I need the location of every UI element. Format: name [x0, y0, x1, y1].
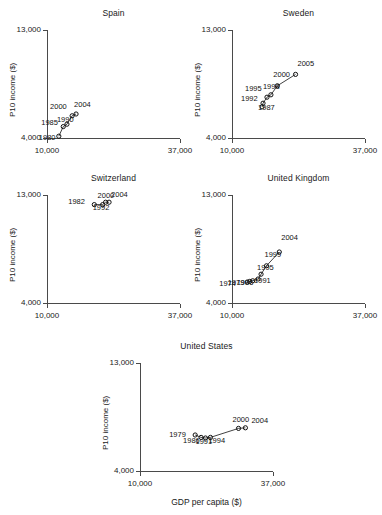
point-year-label: 1985: [41, 119, 58, 127]
point-year-label: 1980: [39, 134, 56, 142]
point-year-label: 2000: [233, 416, 250, 424]
point-year-label: 1998: [263, 83, 280, 91]
point-year-label: 1995: [257, 264, 274, 272]
point-year-label: 2004: [111, 191, 128, 199]
point-year-label: 2005: [298, 60, 315, 68]
point-year-label: 1990: [57, 116, 74, 124]
point-year-label: 1982: [68, 198, 85, 206]
series-plot: [185, 8, 378, 156]
panel-switzerland: Switzerland13,0004,00010,00037,000P10 in…: [0, 173, 185, 327]
x-axis-label: GDP per capita ($): [140, 497, 273, 507]
point-year-label: 1986: [237, 279, 254, 287]
point-year-label: 2004: [281, 234, 298, 242]
point-year-label: 2000: [273, 71, 290, 79]
point-year-label: 2000: [50, 103, 67, 111]
data-point-marker: [57, 134, 61, 138]
series-plot: [0, 173, 193, 321]
panel-united-kingdom: United Kingdom13,0004,00010,00037,000P10…: [185, 173, 370, 327]
point-year-label: 1992: [93, 204, 110, 212]
panel-spain: Spain13,0004,00010,00037,000P10 income (…: [0, 8, 185, 162]
point-year-label: 1994: [208, 437, 225, 445]
series-plot: [93, 341, 286, 489]
panel-sweden: Sweden13,0004,00010,00037,000P10 income …: [185, 8, 370, 162]
point-year-label: 2004: [74, 101, 91, 109]
point-year-label: 1991: [254, 277, 271, 285]
point-year-label: 1992: [241, 95, 258, 103]
series-plot: [185, 173, 378, 321]
point-year-label: 1999: [264, 251, 281, 259]
series-plot: [0, 8, 193, 156]
point-year-label: 1995: [245, 85, 262, 93]
point-year-label: 1987: [258, 104, 275, 112]
point-year-label: 2004: [251, 417, 268, 425]
panel-united-states: United States13,0004,00010,00037,000P10 …: [93, 341, 278, 495]
